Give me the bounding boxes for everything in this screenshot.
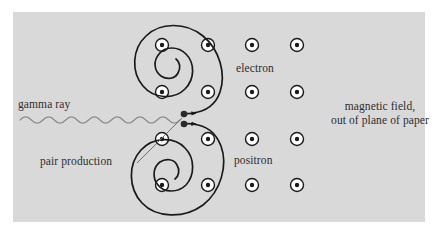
magnetic-field-label-line2: out of plane of paper bbox=[326, 113, 434, 127]
magnetic-field-dot bbox=[291, 133, 304, 146]
pair-production-figure: gamma ray electron positron pair product… bbox=[0, 0, 439, 234]
magnetic-field-dot bbox=[202, 133, 215, 146]
electron-label: electron bbox=[236, 62, 274, 75]
magnetic-field-dot bbox=[246, 133, 259, 146]
pair-production-label: pair production bbox=[40, 155, 112, 168]
magnetic-field-dot bbox=[246, 39, 259, 52]
positron-label: positron bbox=[234, 154, 273, 167]
magnetic-field-dot bbox=[291, 179, 304, 192]
positron-vertex-point bbox=[181, 121, 188, 128]
magnetic-field-dot bbox=[202, 179, 215, 192]
magnetic-field-label: magnetic field, out of plane of paper bbox=[326, 99, 434, 127]
electron-vertex-point bbox=[181, 111, 188, 118]
magnetic-field-dot bbox=[202, 86, 215, 99]
magnetic-field-dot bbox=[291, 86, 304, 99]
magnetic-field-label-line1: magnetic field, bbox=[326, 99, 434, 113]
magnetic-field-dot bbox=[291, 39, 304, 52]
gamma-ray-wave bbox=[20, 117, 180, 123]
gamma-ray-label: gamma ray bbox=[18, 98, 70, 111]
magnetic-field-dot bbox=[246, 86, 259, 99]
magnetic-field-dot bbox=[246, 179, 259, 192]
